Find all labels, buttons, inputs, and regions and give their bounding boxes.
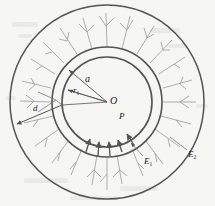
label-E2: E2 (188, 150, 196, 159)
label-E1-subscript: 1 (150, 161, 153, 167)
figure-container: a r1 O P d E1 E2 (0, 0, 215, 206)
label-r1-base: r (73, 85, 77, 95)
label-P: P (119, 112, 125, 121)
label-r1-subscript: 1 (77, 90, 80, 96)
label-E1: E1 (144, 157, 152, 166)
label-r1: r1 (73, 86, 79, 95)
label-d: d (33, 104, 38, 113)
label-E1-base: E (144, 156, 150, 166)
label-E2-subscript: 2 (194, 154, 197, 160)
label-E2-base: E (188, 149, 194, 159)
label-a: a (85, 74, 90, 84)
label-O: O (110, 96, 117, 106)
